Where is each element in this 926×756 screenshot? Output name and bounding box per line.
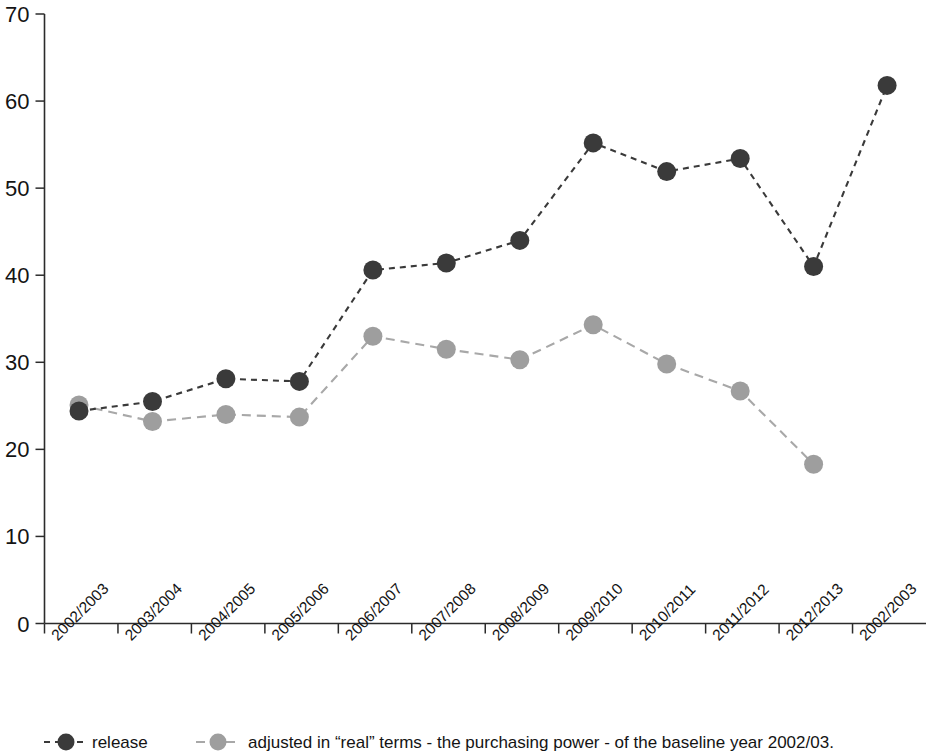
data-point-release xyxy=(878,76,897,95)
data-point-release xyxy=(143,392,162,411)
line-chart: 010203040506070 2002/20032003/20042004/2… xyxy=(0,0,926,756)
y-axis-tick-labels: 010203040506070 xyxy=(5,2,29,637)
x-tick-label: 2003/2004 xyxy=(121,580,185,644)
y-tick-label: 20 xyxy=(5,437,29,462)
legend-item-release: release xyxy=(44,733,148,752)
data-point-release xyxy=(584,133,603,152)
data-point-release xyxy=(290,372,309,391)
data-point-adjusted xyxy=(731,382,750,401)
x-axis-tick-labels: 2002/20032003/20042004/20052005/20062006… xyxy=(48,580,920,644)
y-tick-label: 60 xyxy=(5,89,29,114)
x-tick-label: 2005/2006 xyxy=(268,580,332,644)
y-tick-label: 0 xyxy=(17,612,29,637)
data-point-release xyxy=(657,162,676,181)
series-line-release xyxy=(79,85,887,411)
x-tick-label: 2011/2012 xyxy=(709,581,772,644)
x-tick-label: 2010/2011 xyxy=(635,581,698,644)
x-tick-label: 2008/2009 xyxy=(489,580,553,644)
x-tick-label: 2004/2005 xyxy=(195,580,259,644)
x-tick-label: 2012/2013 xyxy=(782,580,846,644)
data-point-release xyxy=(363,261,382,280)
x-tick-label: 2002/2003 xyxy=(856,580,920,644)
data-point-adjusted xyxy=(510,350,529,369)
data-point-release xyxy=(70,402,89,421)
data-point-adjusted xyxy=(437,340,456,359)
legend-marker-adjusted xyxy=(210,734,227,751)
y-tick-label: 70 xyxy=(5,2,29,27)
data-point-release xyxy=(437,254,456,273)
legend-marker-release xyxy=(58,734,75,751)
axes xyxy=(45,14,926,624)
chart-legend: release adjusted in “real” terms - the p… xyxy=(44,733,834,752)
data-point-release xyxy=(510,231,529,250)
x-tick-label: 2002/2003 xyxy=(48,580,112,644)
y-tick-label: 50 xyxy=(5,176,29,201)
data-point-adjusted xyxy=(216,405,235,424)
data-point-release xyxy=(216,369,235,388)
y-axis-ticks xyxy=(36,14,45,624)
series-markers-adjusted xyxy=(70,315,824,473)
y-tick-label: 30 xyxy=(5,350,29,375)
legend-item-adjusted: adjusted in “real” terms - the purchasin… xyxy=(196,733,834,752)
x-tick-label: 2007/2008 xyxy=(415,580,479,644)
legend-label-release: release xyxy=(92,733,148,752)
data-point-adjusted xyxy=(363,327,382,346)
data-point-adjusted xyxy=(584,315,603,334)
x-tick-label: 2009/2010 xyxy=(562,580,626,644)
data-point-adjusted xyxy=(657,355,676,374)
y-tick-label: 10 xyxy=(5,524,29,549)
data-point-release xyxy=(804,257,823,276)
chart-canvas: 010203040506070 2002/20032003/20042004/2… xyxy=(0,0,926,756)
data-point-adjusted xyxy=(290,408,309,427)
legend-label-adjusted: adjusted in “real” terms - the purchasin… xyxy=(248,733,834,752)
data-point-adjusted xyxy=(804,455,823,474)
data-point-release xyxy=(731,149,750,168)
x-tick-label: 2006/2007 xyxy=(342,580,406,644)
series-markers-release xyxy=(70,76,897,421)
y-tick-label: 40 xyxy=(5,263,29,288)
data-point-adjusted xyxy=(143,412,162,431)
